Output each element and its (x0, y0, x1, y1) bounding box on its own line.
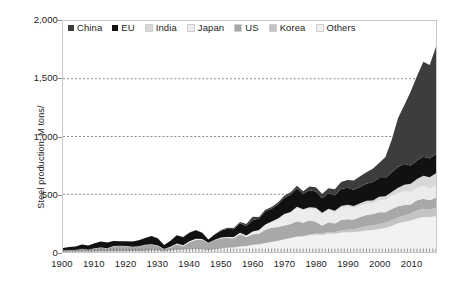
x-axis-labels: 1900191019201930194019501960197019801990… (0, 258, 452, 274)
chart-root: Steel production, M tons/ 05001,0001,500… (0, 0, 452, 286)
legend-swatch-icon (234, 24, 242, 32)
x-axis-tick-label: 2010 (392, 258, 432, 269)
legend-swatch-icon (112, 25, 118, 31)
legend-item-label: EU (121, 23, 134, 33)
legend-swatch-icon (145, 24, 153, 32)
legend-item-eu[interactable]: EU (112, 23, 134, 33)
y-axis-tick-mark (57, 253, 62, 254)
y-axis-tick-label: 500 (2, 190, 58, 199)
legend-item-korea[interactable]: Korea (269, 23, 306, 33)
legend-swatch-icon (68, 25, 74, 31)
legend-item-us[interactable]: US (234, 23, 258, 33)
y-axis-tick-label: 1,500 (2, 73, 58, 82)
plot-area (62, 20, 437, 253)
legend-swatch-icon (316, 24, 324, 32)
legend-item-label: China (77, 23, 102, 33)
legend-item-label: Japan (198, 23, 224, 33)
legend-swatch-icon (187, 24, 195, 32)
y-axis-tick-label: 2,000 (2, 15, 58, 24)
legend-item-label: US (245, 23, 258, 33)
chart-legend: ChinaEUIndiaJapanUSKoreaOthers (68, 23, 356, 33)
legend-item-japan[interactable]: Japan (187, 23, 224, 33)
legend-item-label: India (156, 23, 177, 33)
legend-item-china[interactable]: China (68, 23, 102, 33)
y-axis-labels: 05001,0001,5002,000 (0, 0, 58, 286)
legend-item-others[interactable]: Others (316, 23, 356, 33)
stacked-area-svg (63, 21, 436, 252)
legend-item-label: Others (327, 23, 356, 33)
y-axis-tick-label: 0 (2, 248, 58, 257)
legend-item-label: Korea (280, 23, 306, 33)
legend-item-india[interactable]: India (145, 23, 177, 33)
legend-swatch-icon (269, 24, 277, 32)
y-axis-tick-label: 1,000 (2, 132, 58, 141)
